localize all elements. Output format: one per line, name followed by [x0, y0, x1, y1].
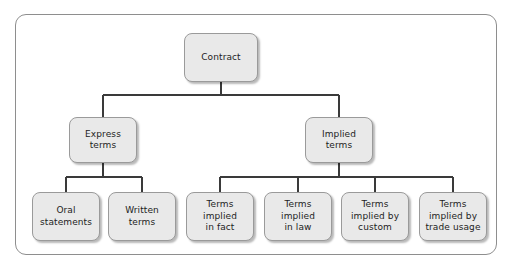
node-terms-implied-by-custom[interactable]: Terms implied by custom	[341, 192, 409, 241]
node-terms-implied-by-custom-label: Terms implied by custom	[351, 199, 399, 234]
node-implied-terms[interactable]: Implied terms	[305, 117, 373, 163]
node-oral-statements-label: Oral statements	[40, 205, 92, 228]
node-terms-implied-by-trade-usage[interactable]: Terms implied by trade usage	[419, 192, 487, 241]
node-terms-implied-in-law[interactable]: Terms implied in law	[264, 192, 332, 241]
node-implied-terms-label: Implied terms	[322, 129, 356, 152]
node-contract-label: Contract	[201, 52, 241, 64]
node-oral-statements[interactable]: Oral statements	[32, 192, 100, 241]
contract-terms-diagram: Contract Express terms Implied terms Ora…	[0, 0, 512, 276]
node-contract[interactable]: Contract	[184, 33, 258, 82]
node-terms-implied-in-fact[interactable]: Terms implied in fact	[186, 192, 254, 241]
node-written-terms[interactable]: Written terms	[108, 192, 176, 241]
node-express-terms-label: Express terms	[85, 129, 121, 152]
node-terms-implied-in-law-label: Terms implied in law	[281, 199, 315, 234]
node-terms-implied-in-fact-label: Terms implied in fact	[203, 199, 237, 234]
node-terms-implied-by-trade-usage-label: Terms implied by trade usage	[425, 199, 480, 234]
node-written-terms-label: Written terms	[125, 205, 159, 228]
node-express-terms[interactable]: Express terms	[69, 117, 137, 163]
